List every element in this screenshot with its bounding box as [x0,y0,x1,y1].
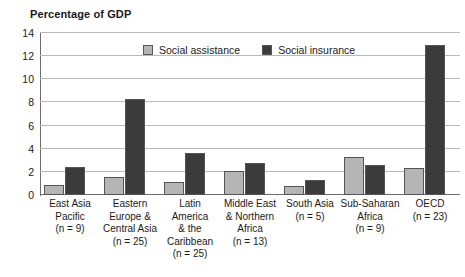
y-tick-label: 12 [4,50,34,62]
y-tick-label: 2 [4,166,34,178]
category-label-line: OECD [390,198,465,211]
bar-assistance[interactable] [284,186,304,195]
bar-group [100,33,160,195]
bar-insurance[interactable] [125,99,145,195]
bar-insurance[interactable] [185,153,205,195]
bar-insurance[interactable] [425,45,445,195]
bar-group [40,33,100,195]
bar-group [160,33,220,195]
bar-group [280,33,340,195]
y-tick-label: 4 [4,143,34,155]
bar-insurance[interactable] [65,167,85,195]
bar-group [220,33,280,195]
bar-group [340,33,400,195]
chart-container: Percentage of GDP Social assistanceSocia… [0,0,465,277]
y-axis-tick-labels: 02468101214 [0,33,34,195]
bar-assistance[interactable] [104,177,124,196]
bar-insurance[interactable] [365,165,385,195]
bar-assistance[interactable] [44,185,64,195]
y-tick-label: 6 [4,120,34,132]
plot-area [40,33,460,195]
category-label: OECD(n = 23) [390,198,465,223]
x-axis-category-labels: East AsiaPacific(n = 9)EasternEurope &Ce… [40,198,460,274]
bar-insurance[interactable] [245,163,265,195]
category-label-line: (n = 23) [390,211,465,224]
y-tick-label: 14 [4,27,34,39]
chart-title: Percentage of GDP [30,8,131,20]
bar-assistance[interactable] [164,182,184,195]
category-label-line: Africa [210,223,290,236]
category-label-line: (n = 9) [330,223,410,236]
bar-assistance[interactable] [224,171,244,195]
bar-assistance[interactable] [404,168,424,195]
category-label-line: (n = 13) [210,236,290,249]
category-label-line: (n = 25) [150,248,230,261]
y-tick-label: 10 [4,73,34,85]
bar-group [400,33,460,195]
bar-assistance[interactable] [344,157,364,195]
bar-insurance[interactable] [305,180,325,195]
y-tick-label: 8 [4,96,34,108]
